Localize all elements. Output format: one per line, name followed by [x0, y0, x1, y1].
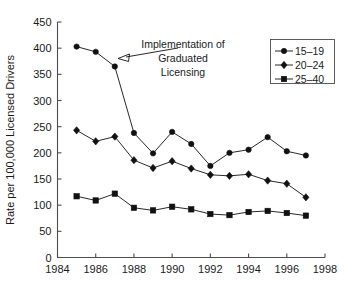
annotation-text-group: Implementation of Graduated Licensing: [141, 38, 225, 78]
series-20-24: [74, 127, 309, 201]
series-25-40: [74, 191, 309, 218]
data-point-marker: [265, 208, 270, 213]
y-tick-label: 300: [33, 95, 51, 107]
legend-items[interactable]: 15–1920–2425–40: [275, 45, 324, 85]
data-point-marker: [284, 210, 289, 215]
data-point-marker: [227, 212, 232, 217]
x-tick-label: 1986: [83, 263, 107, 275]
data-point-marker: [93, 138, 99, 145]
data-point-marker: [169, 129, 174, 134]
legend-label: 15–19: [295, 45, 324, 57]
legend-label: 20–24: [295, 59, 324, 71]
data-point-marker: [93, 198, 98, 203]
data-point-marker: [303, 194, 309, 201]
data-point-marker: [188, 165, 194, 172]
x-tick-label: 1990: [160, 263, 184, 275]
data-point-marker: [208, 211, 213, 216]
y-tick-label: 50: [39, 225, 51, 237]
data-point-marker: [245, 171, 251, 178]
y-tick-labels: 050100150200250300350400450: [33, 16, 51, 264]
y-tick-label: 100: [33, 199, 51, 211]
data-point-marker: [281, 48, 286, 53]
data-point-marker: [169, 158, 175, 165]
legend-label: 25–40: [295, 73, 324, 85]
data-point-marker: [131, 205, 136, 210]
data-point-marker: [150, 208, 155, 213]
data-point-marker: [303, 153, 308, 158]
y-tick-label: 250: [33, 121, 51, 133]
y-tick-label: 150: [33, 173, 51, 185]
data-point-marker: [207, 171, 213, 178]
data-point-marker: [112, 64, 117, 69]
annotation-line-1: Implementation of: [141, 38, 225, 50]
data-point-marker: [208, 163, 213, 168]
data-point-marker: [112, 191, 117, 196]
data-point-marker: [284, 180, 290, 187]
x-tick-marks: [58, 254, 326, 258]
data-point-marker: [303, 213, 308, 218]
y-tick-label: 450: [33, 16, 51, 28]
data-point-marker: [246, 147, 251, 152]
x-tick-label: 1992: [198, 263, 222, 275]
annotation-arrowhead: [118, 54, 130, 62]
data-point-marker: [74, 44, 79, 49]
x-tick-label: 1998: [313, 263, 337, 275]
y-tick-marks: [58, 22, 62, 258]
data-point-marker: [189, 207, 194, 212]
x-tick-label: 1996: [275, 263, 299, 275]
annotation-line-3: Licensing: [161, 66, 206, 78]
x-tick-label: 1994: [236, 263, 260, 275]
data-point-marker: [74, 194, 79, 199]
x-tick-labels: 19841986198819901992199419961998: [45, 263, 337, 275]
data-point-marker: [284, 149, 289, 154]
data-point-marker: [150, 164, 156, 171]
data-point-marker: [227, 150, 232, 155]
legend[interactable]: 15–1920–2425–40: [271, 40, 335, 86]
data-point-marker: [226, 172, 232, 179]
data-point-marker: [265, 177, 271, 184]
data-point-marker: [74, 127, 80, 134]
data-point-marker: [131, 130, 136, 135]
data-point-marker: [265, 134, 270, 139]
y-axis-title: Rate per 100,000 Licensed Drivers: [4, 55, 16, 225]
data-point-marker: [189, 141, 194, 146]
x-tick-label: 1984: [45, 263, 69, 275]
annotation-line-2: Graduated: [158, 52, 208, 64]
data-point-marker: [150, 151, 155, 156]
x-tick-label: 1988: [122, 263, 146, 275]
y-tick-label: 200: [33, 147, 51, 159]
data-point-marker: [93, 49, 98, 54]
chart-figure: 050100150200250300350400450 198419861988…: [0, 0, 345, 283]
data-point-marker: [169, 204, 174, 209]
y-tick-label: 350: [33, 68, 51, 80]
data-point-marker: [246, 209, 251, 214]
y-tick-label: 400: [33, 42, 51, 54]
data-point-marker: [281, 76, 286, 81]
line-chart: 050100150200250300350400450 198419861988…: [0, 0, 345, 283]
